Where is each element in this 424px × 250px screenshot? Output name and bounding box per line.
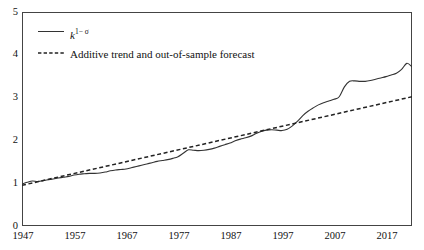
series-line-k-1-sigma (22, 63, 412, 184)
x-axis-tick-1967: 1967 (107, 231, 147, 242)
x-axis-tick-1987: 1987 (211, 231, 251, 242)
y-axis-tick-3: 3 (2, 92, 18, 103)
legend-swatch-solid (38, 31, 64, 32)
series-line-additive-trend (22, 97, 412, 186)
y-axis-tick-2: 2 (2, 135, 18, 146)
x-axis-tick-2017: 2017 (367, 231, 407, 242)
x-axis-tick-2007: 2007 (315, 231, 355, 242)
dashed-swatch-icon (38, 50, 66, 56)
x-axis-tick-1957: 1957 (55, 231, 95, 242)
x-axis-tick-1977: 1977 (159, 231, 199, 242)
x-axis-tick-1997: 1997 (263, 231, 303, 242)
x-axis-tick-1947: 1947 (3, 231, 43, 242)
y-axis-tick-4: 4 (2, 49, 18, 60)
chart-figure: 5 4 3 2 1 0 1947 1957 1967 1977 1987 199… (0, 0, 424, 250)
legend-exponent: 1− σ (75, 27, 89, 36)
y-axis-tick-5: 5 (2, 7, 18, 18)
legend-label-additive-trend: Additive trend and out-of-sample forecas… (70, 44, 255, 64)
y-axis-tick-1: 1 (2, 178, 18, 189)
legend-label-k-1-sigma: k1− σ (70, 22, 89, 45)
